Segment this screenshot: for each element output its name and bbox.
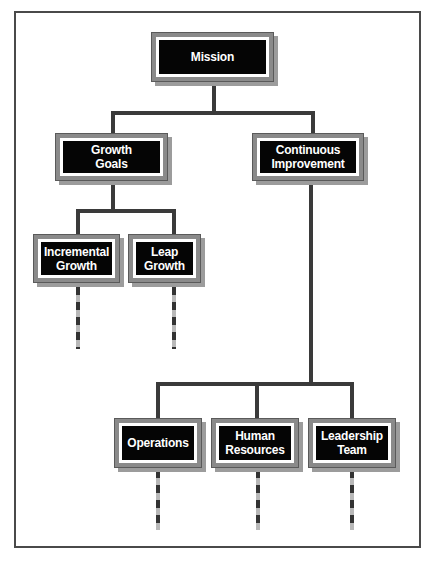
- connector-to-leadership: [350, 382, 354, 418]
- node-mission-label: Mission: [159, 40, 266, 74]
- connector-level2-horizontal: [111, 111, 315, 115]
- node-incremental-growth: Incremental Growth: [33, 234, 120, 283]
- node-leadership-team: Leadership Team: [308, 418, 396, 468]
- connector-mission-down: [212, 82, 216, 114]
- node-leap-growth: Leap Growth: [128, 234, 201, 283]
- connector-ci-down: [309, 181, 313, 386]
- node-operations-label: Operations: [122, 426, 194, 460]
- node-incremental-growth-label: Incremental Growth: [41, 242, 112, 275]
- node-operations: Operations: [114, 418, 202, 468]
- node-leadership-team-label: Leadership Team: [316, 426, 388, 460]
- dashed-continuation-human-resources: [256, 470, 260, 530]
- connector-to-incremental: [76, 209, 80, 234]
- connector-growth-horizontal: [76, 209, 176, 213]
- node-continuous-improvement-label: Continuous Improvement: [260, 141, 356, 173]
- node-continuous-improvement: Continuous Improvement: [252, 133, 364, 181]
- dashed-continuation-leadership: [350, 470, 354, 530]
- node-leap-growth-label: Leap Growth: [136, 242, 193, 275]
- connector-to-human-resources: [255, 382, 259, 418]
- node-mission: Mission: [151, 32, 274, 82]
- node-growth-goals: Growth Goals: [55, 133, 168, 181]
- dashed-continuation-leap: [172, 287, 176, 349]
- node-growth-goals-label: Growth Goals: [63, 141, 160, 173]
- connector-to-leap: [172, 209, 176, 234]
- connector-to-growth-goals: [111, 111, 115, 133]
- node-human-resources-label: Human Resources: [219, 426, 291, 460]
- dashed-continuation-operations: [156, 470, 160, 530]
- node-human-resources: Human Resources: [211, 418, 299, 468]
- connector-to-continuous-improvement: [311, 111, 315, 133]
- connector-to-operations: [156, 382, 160, 418]
- dashed-continuation-incremental: [76, 287, 80, 349]
